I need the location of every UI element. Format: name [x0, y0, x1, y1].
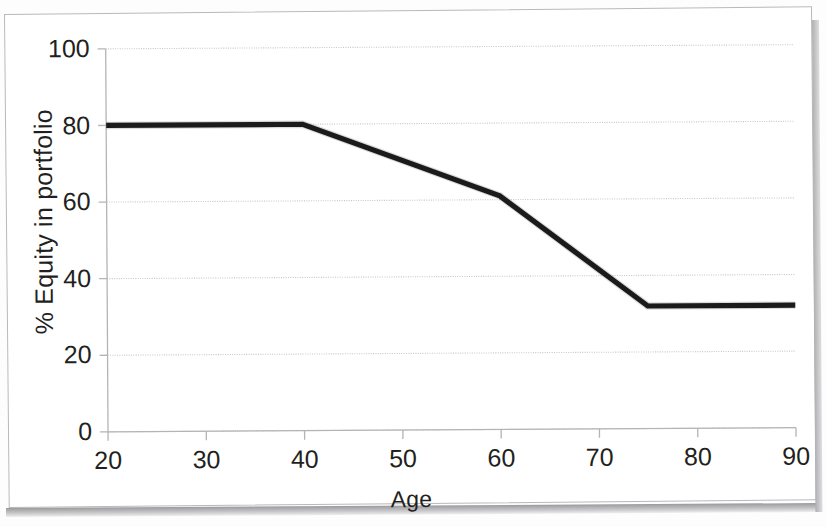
x-tick-label-40: 40	[275, 446, 335, 471]
axis-lines	[106, 45, 796, 432]
series-line-halo-0	[106, 121, 795, 309]
x-axis-line	[108, 428, 796, 432]
y-axis-title: % Equity in portfolio	[28, 82, 59, 362]
gridline-y-40	[107, 274, 795, 278]
y-axis-line	[106, 49, 108, 432]
x-tick-label-90: 90	[766, 443, 826, 468]
x-axis-title: Age	[331, 486, 491, 514]
x-tick-label-80: 80	[668, 444, 728, 469]
x-tick-label-30: 30	[176, 447, 236, 472]
plot-area: 020406080100 2030405060708090 % Equity i…	[0, 0, 826, 527]
y-tick-label-0: 0	[30, 419, 92, 444]
gridline-y-60	[107, 198, 795, 202]
series-line-0	[106, 121, 795, 309]
data-series	[106, 121, 795, 309]
tick-marks	[98, 45, 796, 441]
gridline-y-20	[108, 351, 796, 355]
x-tick-label-60: 60	[471, 445, 531, 470]
gridline-y-100	[106, 45, 794, 49]
chart-figure: 020406080100 2030405060708090 % Equity i…	[0, 0, 826, 527]
x-tick-label-20: 20	[78, 448, 138, 473]
gridlines	[106, 45, 796, 432]
y-tick-label-100: 100	[28, 36, 90, 61]
x-tick-label-70: 70	[570, 445, 630, 470]
x-tick-label-50: 50	[373, 446, 433, 471]
